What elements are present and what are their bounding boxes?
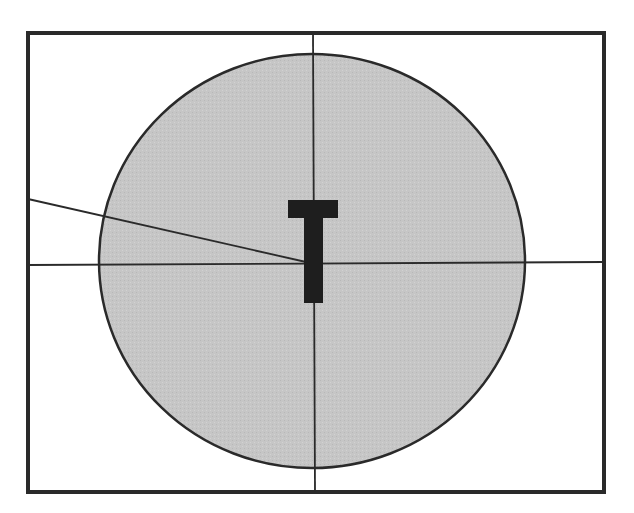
t-marker-stem	[304, 200, 323, 303]
diagram-canvas: T	[0, 0, 634, 513]
